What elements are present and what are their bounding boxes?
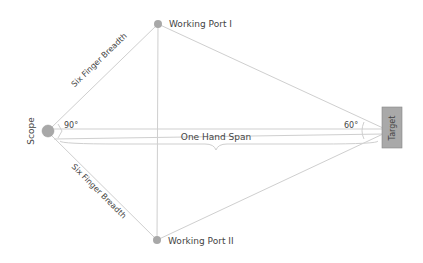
scope-angle-label: 90° [64,121,78,130]
edge-scope-port2-label: Six Finger Breadth [70,162,128,220]
span-brace [60,141,378,150]
edge-port2-target [157,134,383,240]
scope-angle-arc [58,124,62,138]
target-angle-arc [362,122,364,139]
edge-port1-target [158,24,383,128]
edge-scope-port1-label: Six Finger Breadth [70,31,129,88]
port1-node [154,20,162,28]
port2-node [153,236,161,244]
edge-scope-target-label: One Hand Span [181,132,251,142]
scope-node [42,125,54,137]
target-angle-label: 60° [344,121,358,130]
edge-scope-port1 [52,24,158,127]
target-label: Target [388,116,397,142]
port2-label: Working Port II [168,236,234,246]
laparoscopy-port-diagram: Working Port I Working Port II Scope Tar… [0,0,423,263]
scope-label: Scope [26,117,36,145]
edge-scope-port2 [52,136,157,240]
port1-label: Working Port I [169,19,232,29]
edge-port1-port2 [157,24,158,240]
